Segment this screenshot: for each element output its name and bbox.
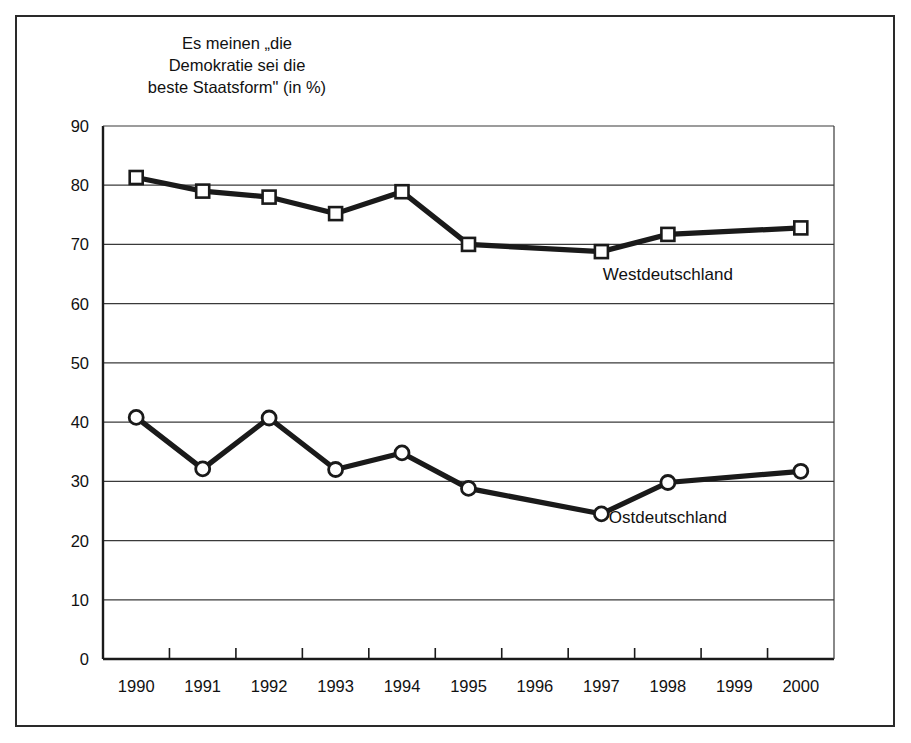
x-axis-ticks — [169, 648, 767, 659]
axes-group — [103, 126, 834, 659]
data-point-marker — [395, 446, 409, 460]
x-axis-tick-label: 1991 — [184, 677, 221, 695]
y-axis-tick-label: 70 — [71, 235, 89, 253]
data-point-marker — [794, 464, 808, 478]
y-axis-tick-label: 40 — [71, 413, 89, 431]
chart-frame: Es meinen „die Demokratie sei die beste … — [15, 15, 895, 727]
data-point-marker — [462, 238, 475, 251]
series-markers-group — [129, 171, 808, 521]
x-axis-tick-label: 1992 — [251, 677, 288, 695]
y-axis-tick-label: 30 — [71, 472, 89, 490]
data-point-marker — [329, 207, 342, 220]
y-axis-tick-label: 90 — [71, 117, 89, 135]
x-axis-tick-label: 1999 — [716, 677, 753, 695]
y-axis-tick-label: 60 — [71, 295, 89, 313]
series-annotation-label: Westdeutschland — [603, 265, 733, 284]
x-axis-tick-label: 1996 — [517, 677, 554, 695]
data-point-marker — [329, 463, 343, 477]
series-annotation-label: Ostdeutschland — [609, 508, 727, 527]
y-axis-tick-label: 80 — [71, 176, 89, 194]
data-point-marker — [661, 476, 675, 490]
data-point-marker — [196, 462, 210, 476]
x-axis-tick-label: 1993 — [317, 677, 354, 695]
series-line-ostdeutschland — [136, 417, 801, 514]
x-axis-tick-labels: 1990199119921993199419951996199719981999… — [118, 677, 819, 695]
series-lines-group — [136, 178, 801, 514]
chart-plot-area: 0102030405060708090 19901991199219931994… — [17, 17, 897, 729]
data-point-marker — [262, 411, 276, 425]
y-axis-tick-label: 20 — [71, 532, 89, 550]
y-axis-tick-label: 0 — [80, 650, 89, 668]
x-axis-tick-label: 1990 — [118, 677, 155, 695]
data-point-marker — [129, 410, 143, 424]
data-point-marker — [130, 171, 143, 184]
y-axis-tick-label: 10 — [71, 591, 89, 609]
line-chart-svg: 0102030405060708090 19901991199219931994… — [17, 17, 897, 729]
y-axis-tick-labels: 0102030405060708090 — [71, 117, 89, 668]
data-point-marker — [661, 228, 674, 241]
x-axis-tick-label: 1995 — [450, 677, 487, 695]
x-axis-tick-label: 2000 — [782, 677, 819, 695]
data-point-marker — [595, 245, 608, 258]
data-point-marker — [196, 185, 209, 198]
data-point-marker — [396, 185, 409, 198]
x-axis-tick-label: 1997 — [583, 677, 620, 695]
y-axis-tick-label: 50 — [71, 354, 89, 372]
x-axis-tick-label: 1994 — [384, 677, 421, 695]
x-axis-tick-label: 1998 — [650, 677, 687, 695]
data-point-marker — [462, 481, 476, 495]
data-point-marker — [263, 191, 276, 204]
data-point-marker — [794, 221, 807, 234]
data-point-marker — [594, 507, 608, 521]
